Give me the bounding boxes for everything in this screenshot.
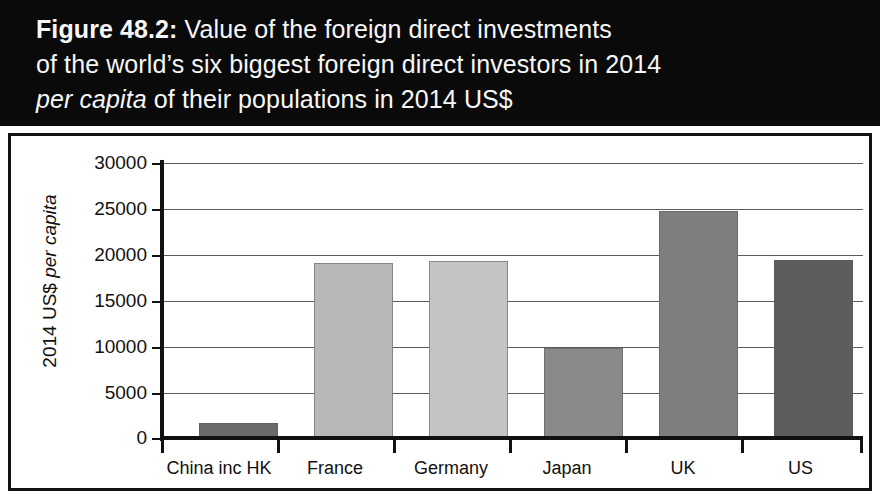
y-axis-title-italic: per capita bbox=[39, 194, 60, 277]
y-tick-mark-10000 bbox=[152, 347, 161, 349]
x-tick-mark-3 bbox=[509, 440, 512, 453]
bar-us bbox=[774, 260, 853, 438]
x-tick-mark-2 bbox=[393, 440, 396, 453]
y-tick-label-30000: 30000 bbox=[61, 153, 147, 172]
y-tick-mark-5000 bbox=[152, 393, 161, 395]
x-tick-mark-4 bbox=[625, 440, 628, 453]
y-tick-mark-25000 bbox=[152, 209, 161, 211]
figure-title-line-3: per capita of their populations in 2014 … bbox=[36, 82, 880, 117]
x-tick-label-germany: Germany bbox=[393, 458, 509, 479]
y-tick-label-15000: 15000 bbox=[61, 291, 147, 310]
y-tick-label-5000: 5000 bbox=[61, 383, 147, 402]
bar-uk bbox=[659, 211, 738, 438]
y-axis-title-plain: 2014 US$ bbox=[39, 278, 60, 368]
y-tick-label-wrap-10000: 10000 bbox=[55, 337, 147, 356]
figure-title-line-1: Figure 48.2: Value of the foreign direct… bbox=[36, 12, 880, 47]
y-tick-label-0: 0 bbox=[61, 428, 147, 447]
gridline-15000 bbox=[163, 301, 863, 302]
bar-france bbox=[314, 263, 393, 438]
y-tick-label-wrap-20000: 20000 bbox=[55, 245, 147, 264]
figure-page: Figure 48.2: Value of the foreign direct… bbox=[0, 0, 880, 501]
gridline-10000 bbox=[163, 347, 863, 348]
per-capita-emphasis: per capita bbox=[36, 85, 147, 113]
bar-japan bbox=[544, 348, 623, 438]
y-tick-label-wrap-30000: 30000 bbox=[55, 153, 147, 172]
y-tick-mark-20000 bbox=[152, 255, 161, 257]
x-tick-label-japan: Japan bbox=[509, 458, 625, 479]
x-tick-label-us: US bbox=[741, 458, 860, 479]
y-tick-label-20000: 20000 bbox=[61, 245, 147, 264]
x-tick-label-china-inc-hk: China inc HK bbox=[161, 458, 277, 479]
y-tick-mark-15000 bbox=[152, 301, 161, 303]
y-tick-label-10000: 10000 bbox=[61, 337, 147, 356]
figure-number-label: Figure 48.2: bbox=[36, 15, 178, 43]
gridline-30000 bbox=[163, 163, 863, 164]
x-tick-mark-1 bbox=[277, 440, 280, 453]
x-tick-mark-6 bbox=[860, 440, 863, 453]
gridline-5000 bbox=[163, 393, 863, 394]
y-tick-label-25000: 25000 bbox=[61, 199, 147, 218]
gridline-20000 bbox=[163, 255, 863, 256]
x-tick-label-uk: UK bbox=[625, 458, 741, 479]
y-tick-mark-30000 bbox=[152, 163, 161, 165]
figure-title-band: Figure 48.2: Value of the foreign direct… bbox=[0, 0, 880, 126]
x-tick-mark-5 bbox=[741, 440, 744, 453]
figure-title-line-3-text: of their populations in 2014 US$ bbox=[147, 85, 513, 113]
y-axis-title: 2014 US$ per capita bbox=[39, 156, 61, 406]
y-tick-mark-0 bbox=[152, 438, 161, 440]
chart-frame: 30000 25000 20000 15000 10000 5000 0 2 bbox=[8, 133, 872, 491]
plot-area: 30000 25000 20000 15000 10000 5000 0 2 bbox=[11, 136, 869, 488]
y-tick-label-wrap-25000: 25000 bbox=[55, 199, 147, 218]
figure-title-line-2: of the world’s six biggest foreign direc… bbox=[36, 47, 880, 82]
y-tick-label-wrap-0: 0 bbox=[55, 428, 147, 447]
y-tick-label-wrap-15000: 15000 bbox=[55, 291, 147, 310]
y-tick-label-wrap-5000: 5000 bbox=[55, 383, 147, 402]
figure-title-line-1-text: Value of the foreign direct investments bbox=[178, 15, 612, 43]
gridline-25000 bbox=[163, 209, 863, 210]
bar-germany bbox=[429, 261, 508, 438]
x-tick-mark-0 bbox=[161, 440, 164, 453]
x-tick-label-france: France bbox=[277, 458, 393, 479]
